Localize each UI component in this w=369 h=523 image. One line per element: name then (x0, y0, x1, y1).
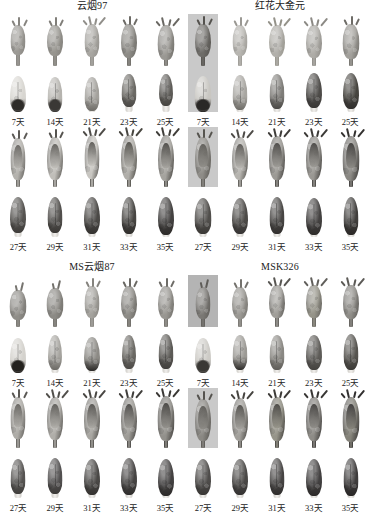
specimen-texture (11, 25, 26, 55)
day-label-cell: 14天 (224, 372, 257, 390)
specimen-row-bud-late (185, 127, 369, 187)
day-label-cell: 25天 (334, 372, 367, 390)
day-label: 7天 (197, 117, 210, 127)
day-label-cell: 27天 (2, 236, 35, 254)
specimen-cell (39, 14, 72, 66)
dissected-organ-specimen (151, 448, 181, 498)
day-label-row-late: 27天29天31天33天35天 (185, 498, 369, 513)
dissected-organ-specimen (151, 66, 181, 112)
flower-bud-specimen (225, 127, 255, 187)
flower-bud-specimen (77, 275, 107, 327)
bud-sepal-tip (203, 391, 205, 400)
specimen-cell (187, 14, 220, 66)
bud-sepal-tip (55, 129, 57, 138)
specimen-cell (75, 448, 108, 498)
day-label-row-late: 27天29天31天33天35天 (0, 237, 184, 252)
organ-body (84, 77, 99, 111)
specimen-cell (149, 388, 182, 448)
flower-bud-specimen (114, 275, 144, 327)
organ-midvein (350, 203, 351, 227)
specimen-cell (112, 14, 145, 66)
specimen-row-organ-late (185, 448, 369, 498)
day-label-cell: 33天 (112, 497, 145, 515)
bud-calyx (11, 25, 26, 55)
flower-bud-specimen (77, 127, 107, 187)
bud-calyx (342, 24, 359, 59)
flower-bud-specimen (40, 388, 70, 448)
organ-body (343, 73, 359, 109)
day-label-cell: 23天 (297, 111, 330, 129)
bud-sepal-tip (129, 278, 131, 287)
bud-corolla (309, 143, 319, 167)
flower-bud-specimen (336, 275, 366, 327)
specimen-cell (187, 127, 220, 187)
organ-midvein (313, 204, 314, 227)
organ-body (233, 75, 248, 110)
specimen-texture (157, 25, 174, 60)
specimen-cell (149, 14, 182, 66)
organ-body (121, 74, 136, 107)
specimen-cell (75, 66, 108, 112)
organ-midvein (350, 79, 351, 101)
bud-corolla (50, 404, 60, 428)
specimen-texture (196, 287, 211, 319)
flower-bud-specimen (3, 388, 33, 448)
panel-honghuadajinyuan: 红花大金元 7天14天21天23天25天 27天29天31天33天35天 (185, 0, 369, 252)
specimen-cell (75, 388, 108, 448)
day-label-cell: 35天 (334, 236, 367, 254)
day-label: 35天 (157, 503, 175, 513)
dissected-organ-specimen (151, 327, 181, 373)
day-label: 14天 (231, 378, 249, 388)
flower-bud-specimen (225, 388, 255, 448)
day-label: 33天 (305, 503, 323, 513)
organ-body (48, 458, 63, 494)
specimen-cell (75, 127, 108, 187)
bud-sepal-tip (18, 389, 20, 398)
panel-title-yunyan97: 云烟97 (0, 0, 184, 14)
specimen-cell (334, 127, 367, 187)
bud-corolla (235, 144, 245, 168)
specimen-cell (334, 448, 367, 498)
organ-midvein (128, 464, 129, 487)
specimen-cell (149, 127, 182, 187)
organ-midvein (55, 203, 56, 225)
day-label: 33天 (120, 242, 138, 252)
day-label: 29天 (46, 242, 64, 252)
organ-body (269, 335, 284, 370)
specimen-cell (334, 327, 367, 373)
day-label-cell: 29天 (224, 236, 257, 254)
day-label-cell: 23天 (112, 111, 145, 129)
organ-midvein (91, 82, 92, 103)
day-label: 21天 (83, 378, 101, 388)
specimen-row-bud-late (185, 388, 369, 448)
flower-bud-specimen (299, 127, 329, 187)
specimen-cell (334, 187, 367, 237)
specimen-cell (297, 388, 330, 448)
specimen-cell (2, 275, 35, 327)
panel-ms-yunyan87: MS云烟87 7天14天21天23天25天 27天29天31天33天35天 (0, 261, 184, 513)
organ-midvein (350, 340, 351, 362)
specimen-row-organ-early (185, 66, 369, 112)
flower-bud-specimen (188, 127, 218, 187)
dissected-organ-specimen (299, 327, 329, 373)
organ-body (158, 197, 174, 235)
dissected-organ-specimen (3, 448, 33, 498)
dissected-organ-specimen (114, 448, 144, 498)
flower-bud-specimen (151, 275, 181, 327)
day-label-cell: 31天 (260, 497, 293, 515)
organ-midvein (240, 81, 241, 103)
specimen-cell (187, 327, 220, 373)
day-label: 29天 (46, 503, 64, 513)
day-label: 33天 (120, 503, 138, 513)
flower-bud-specimen (262, 14, 292, 66)
organ-midvein (165, 79, 166, 99)
dissected-organ-specimen (225, 448, 255, 498)
organ-midvein (240, 204, 241, 226)
specimen-cell (2, 187, 35, 237)
panel-title-msk326: MSK326 (185, 261, 369, 275)
flower-bud-specimen (3, 127, 33, 187)
flower-bud-specimen (114, 388, 144, 448)
specimen-texture (10, 290, 27, 320)
specimen-cell (112, 388, 145, 448)
dissected-organ-specimen (151, 187, 181, 237)
